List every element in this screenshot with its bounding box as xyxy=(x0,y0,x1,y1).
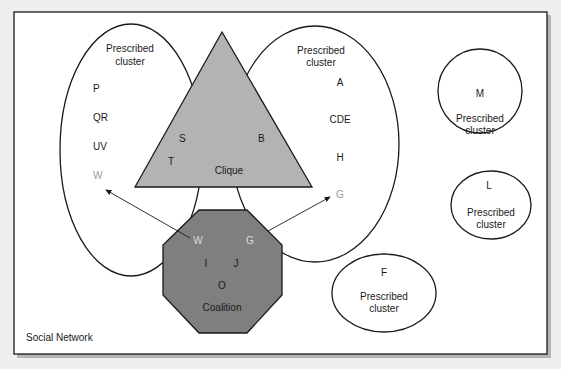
member-uv: UV xyxy=(93,141,107,152)
member-l: L xyxy=(486,180,492,191)
member-s: S xyxy=(179,133,186,144)
m-cluster-title-1: Prescribed xyxy=(456,113,504,124)
member-i: I xyxy=(205,258,208,269)
coalition-label: Coalition xyxy=(203,302,242,313)
l-cluster-title-1: Prescribed xyxy=(467,207,515,218)
member-m: M xyxy=(476,88,484,99)
social-network-label: Social Network xyxy=(26,332,94,343)
member-f: F xyxy=(381,267,387,278)
m-cluster-title-2: cluster xyxy=(465,125,495,136)
member-g-middle: G xyxy=(336,189,344,200)
left-cluster-title-1: Prescribed xyxy=(106,43,154,54)
social-network-diagram: Prescribed cluster P QR UV W S B T Cliqu… xyxy=(0,0,561,369)
member-qr: QR xyxy=(93,112,108,123)
clique-label: Clique xyxy=(215,165,244,176)
member-j: J xyxy=(234,258,239,269)
coalition-octagon xyxy=(163,210,282,333)
member-b: B xyxy=(258,133,265,144)
middle-cluster-title-2: cluster xyxy=(306,57,336,68)
member-p: P xyxy=(93,83,100,94)
f-cluster-title-1: Prescribed xyxy=(360,291,408,302)
f-cluster-title-2: cluster xyxy=(369,303,399,314)
member-h: H xyxy=(336,152,343,163)
member-a: A xyxy=(337,77,344,88)
member-o: O xyxy=(218,280,226,291)
left-cluster-title-2: cluster xyxy=(115,56,145,67)
member-w-coalition: W xyxy=(193,235,203,246)
member-t: T xyxy=(168,156,174,167)
middle-cluster-title-1: Prescribed xyxy=(297,45,345,56)
member-cde: CDE xyxy=(329,114,350,125)
l-cluster-title-2: cluster xyxy=(476,219,506,230)
member-g-coalition: G xyxy=(246,235,254,246)
member-w-left: W xyxy=(93,170,103,181)
